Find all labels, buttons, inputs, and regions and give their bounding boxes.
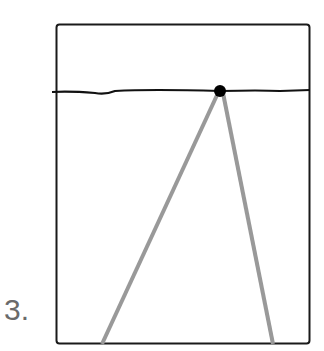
horizon-line [52,90,310,94]
vanishing-point-dot [214,85,226,97]
perspective-diagram [0,0,324,351]
right-ray [223,93,273,344]
left-ray [102,93,218,344]
picture-frame [57,25,310,344]
